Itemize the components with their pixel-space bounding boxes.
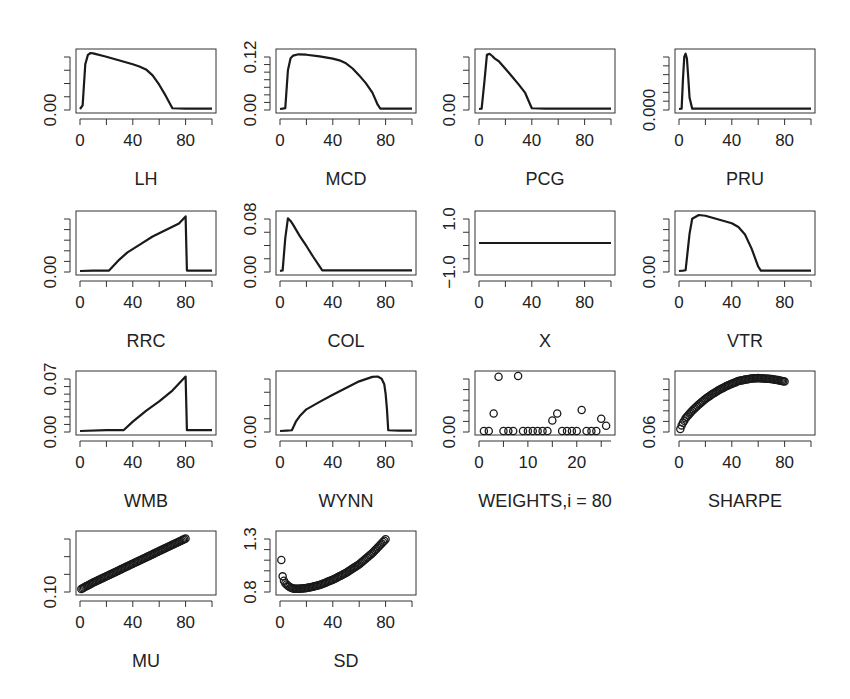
plot-frame (675, 211, 815, 275)
y-tick-label: 0.10 (41, 575, 60, 608)
x-tick-label: 40 (123, 131, 142, 150)
x-tick-label: 80 (176, 131, 195, 150)
y-axis: 0.81.3 (241, 527, 270, 604)
data-point (603, 422, 610, 429)
y-tick-label: 0.07 (41, 362, 60, 395)
series-line (479, 54, 611, 109)
x-tick-label: 0 (674, 131, 683, 150)
data-point (549, 417, 556, 424)
series-line (679, 54, 811, 109)
x-tick-label: 80 (176, 293, 195, 312)
data-point (515, 372, 522, 379)
y-tick-label: 0.8 (241, 580, 260, 604)
x-tick-label: 40 (123, 293, 142, 312)
x-tick-label: 20 (567, 453, 586, 472)
panel-mu: 040800.10MU (41, 531, 216, 671)
x-axis: 04080 (75, 601, 212, 632)
x-axis-title: WMB (124, 491, 168, 511)
x-axis: 04080 (275, 281, 412, 312)
panel-wmb: 040800.000.07WMB (41, 362, 216, 511)
y-tick-label: 0.00 (241, 93, 260, 126)
y-tick-label: 0.00 (41, 255, 60, 288)
x-tick-label: 80 (376, 453, 395, 472)
y-axis: 0.000.07 (41, 362, 70, 448)
data-point (573, 427, 580, 434)
x-tick-label: 0 (474, 293, 483, 312)
panel-wynn: 040800.00WYNN (241, 371, 416, 511)
x-axis-title: LH (134, 169, 157, 189)
x-axis: 01020 (474, 441, 611, 472)
x-axis-title: VTR (727, 331, 763, 351)
x-axis-title: PRU (726, 169, 764, 189)
data-point (544, 427, 551, 434)
data-point (495, 373, 502, 380)
x-axis: 04080 (75, 441, 212, 472)
y-tick-label: 0.00 (241, 255, 260, 288)
y-axis: 0.00 (640, 219, 669, 289)
y-tick-label: 1.3 (241, 527, 260, 551)
y-tick-label: 1.0 (440, 207, 459, 231)
y-axis: 0.10 (41, 539, 70, 609)
panel-weights: 010200.00WEIGHTS,i = 80 (440, 371, 615, 511)
series-line (679, 215, 811, 271)
plot-frame (276, 49, 416, 113)
x-axis-title: WEIGHTS,i = 80 (478, 491, 612, 511)
y-axis: 0.000.12 (241, 40, 270, 126)
x-tick-label: 80 (575, 293, 594, 312)
x-tick-label: 40 (323, 453, 342, 472)
x-axis-title: RRC (127, 331, 166, 351)
x-axis-title: COL (327, 331, 364, 351)
x-axis-title: X (539, 331, 551, 351)
x-tick-label: 80 (176, 453, 195, 472)
x-tick-label: 80 (575, 131, 594, 150)
x-tick-label: 40 (722, 293, 741, 312)
x-tick-label: 0 (275, 131, 284, 150)
x-tick-label: 0 (75, 131, 84, 150)
plot-frame (276, 211, 416, 275)
y-axis: 0.00 (440, 379, 469, 449)
y-tick-label: −1.0 (440, 255, 459, 289)
panel-sd: 040800.81.3SD (241, 527, 416, 671)
y-axis: 0.00 (41, 219, 70, 289)
plot-frame (475, 371, 615, 435)
x-tick-label: 80 (176, 613, 195, 632)
y-tick-label: 0.06 (640, 415, 659, 448)
x-tick-label: 40 (522, 293, 541, 312)
x-tick-label: 80 (775, 453, 794, 472)
y-axis: −1.01.0 (440, 207, 469, 289)
x-tick-label: 40 (323, 293, 342, 312)
data-point (485, 427, 492, 434)
y-tick-label: 0.00 (41, 415, 60, 448)
plot-frame (675, 49, 815, 113)
series-line (80, 53, 212, 109)
x-axis: 04080 (474, 119, 611, 150)
data-point (578, 406, 585, 413)
y-tick-label: 0.12 (241, 40, 260, 73)
x-tick-label: 10 (518, 453, 537, 472)
x-axis-title: WYNN (319, 491, 374, 511)
x-axis-title: MCD (326, 169, 367, 189)
x-tick-label: 0 (275, 293, 284, 312)
y-tick-label: 0.000 (640, 89, 659, 132)
x-axis: 04080 (674, 119, 811, 150)
panel-sharpe: 040800.06SHARPE (640, 371, 815, 511)
x-axis-title: SHARPE (708, 491, 782, 511)
series-line (280, 218, 412, 271)
x-tick-label: 0 (674, 293, 683, 312)
x-axis: 04080 (474, 281, 611, 312)
x-tick-label: 0 (75, 293, 84, 312)
panel-x: 04080−1.01.0X (440, 207, 615, 351)
x-axis: 04080 (75, 281, 212, 312)
y-tick-label: 0.00 (41, 93, 60, 126)
y-tick-label: 0.00 (640, 255, 659, 288)
x-axis-title: SD (333, 651, 358, 671)
plot-frame (76, 49, 216, 113)
data-point (278, 556, 285, 563)
x-tick-label: 0 (75, 453, 84, 472)
panel-pcg: 040800.00PCG (440, 49, 615, 189)
panel-lh: 040800.00LH (41, 49, 216, 189)
chart-grid: 040800.00LH040800.000.12MCD040800.00PCG0… (0, 0, 850, 699)
panel-mcd: 040800.000.12MCD (241, 40, 416, 189)
data-point (593, 427, 600, 434)
panel-vtr: 040800.00VTR (640, 211, 815, 351)
